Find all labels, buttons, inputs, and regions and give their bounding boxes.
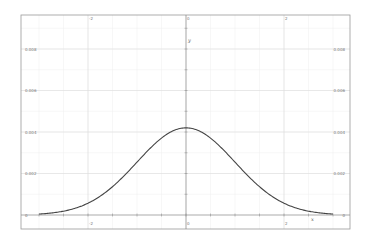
y-tick-label-left: 0.008 (25, 47, 37, 52)
y-tick-label-right: 0.004 (334, 130, 346, 135)
y-tick-label-left: 0.006 (25, 88, 37, 93)
y-tick-label-right: 0.002 (334, 171, 346, 176)
x-tick-label-top: -2 (89, 16, 93, 21)
y-axis-label: y (187, 37, 191, 44)
y-tick-label-right: 0.006 (334, 88, 346, 93)
chart: 000.0020.0020.0040.0040.0060.0060.0080.0… (0, 0, 366, 239)
y-tick-label-left: 0.004 (25, 130, 37, 135)
x-tick-label-bottom: -2 (89, 221, 93, 226)
chart-background (0, 0, 366, 239)
y-tick-label-right: 0.008 (334, 47, 346, 52)
x-axis-label: x (311, 216, 314, 222)
y-tick-label-left: 0.002 (25, 171, 37, 176)
